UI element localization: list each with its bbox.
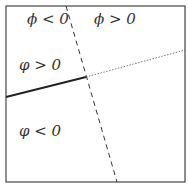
- dashed-boundary-line: [66, 6, 117, 182]
- solid-boundary-line: [6, 77, 86, 97]
- region-label-top-left: ϕ < 0: [27, 12, 69, 27]
- region-label-bottom-left: φ < 0: [19, 124, 61, 139]
- region-label-top-right: ϕ > 0: [94, 12, 136, 27]
- dotted-boundary-line: [86, 50, 185, 77]
- diagram-canvas: [0, 0, 188, 191]
- bounding-box: [6, 6, 185, 182]
- region-label-mid-left: φ > 0: [19, 58, 61, 73]
